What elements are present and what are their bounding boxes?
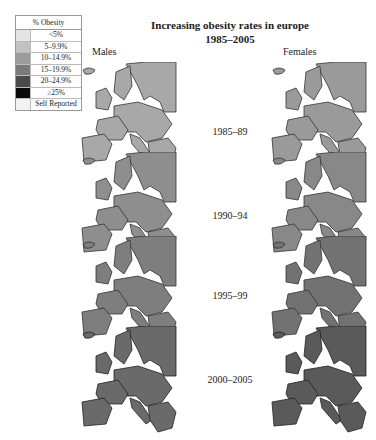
legend-item: 10–14.9%	[16, 53, 81, 65]
legend-item: Self Reported	[16, 99, 81, 110]
period-label: 2000–2005	[180, 374, 280, 385]
map-males-2000	[78, 326, 178, 436]
legend: % Obesity <5% 5–9.9% 10–14.9% 15–19.9% 2…	[15, 15, 82, 111]
legend-item: ≥25%	[16, 88, 81, 100]
females-header: Females	[283, 46, 316, 57]
legend-header: % Obesity	[16, 16, 81, 30]
males-header: Males	[92, 46, 116, 57]
legend-item: <5%	[16, 30, 81, 42]
legend-item: 20–24.9%	[16, 76, 81, 88]
period-label: 1985–89	[180, 126, 280, 137]
period-label: 1990–94	[180, 210, 280, 221]
period-label: 1995–99	[180, 290, 280, 301]
page-title: Increasing obesity rates in europe 1985–…	[120, 18, 340, 46]
legend-item: 5–9.9%	[16, 42, 81, 54]
legend-item: 15–19.9%	[16, 65, 81, 77]
map-females-2000	[268, 326, 368, 436]
